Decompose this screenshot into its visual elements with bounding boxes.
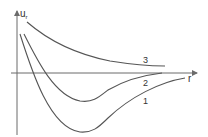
- curve-2: [24, 34, 162, 101]
- x-axis-label: r: [188, 73, 192, 84]
- curve-3-label: 3: [143, 55, 148, 65]
- curve-1: [20, 34, 185, 132]
- potential-curves-diagram: ur r 3 2 1: [0, 0, 208, 137]
- curve-2-label: 2: [143, 78, 148, 88]
- y-axis-label: ur: [20, 8, 28, 20]
- curve-1-label: 1: [143, 96, 148, 106]
